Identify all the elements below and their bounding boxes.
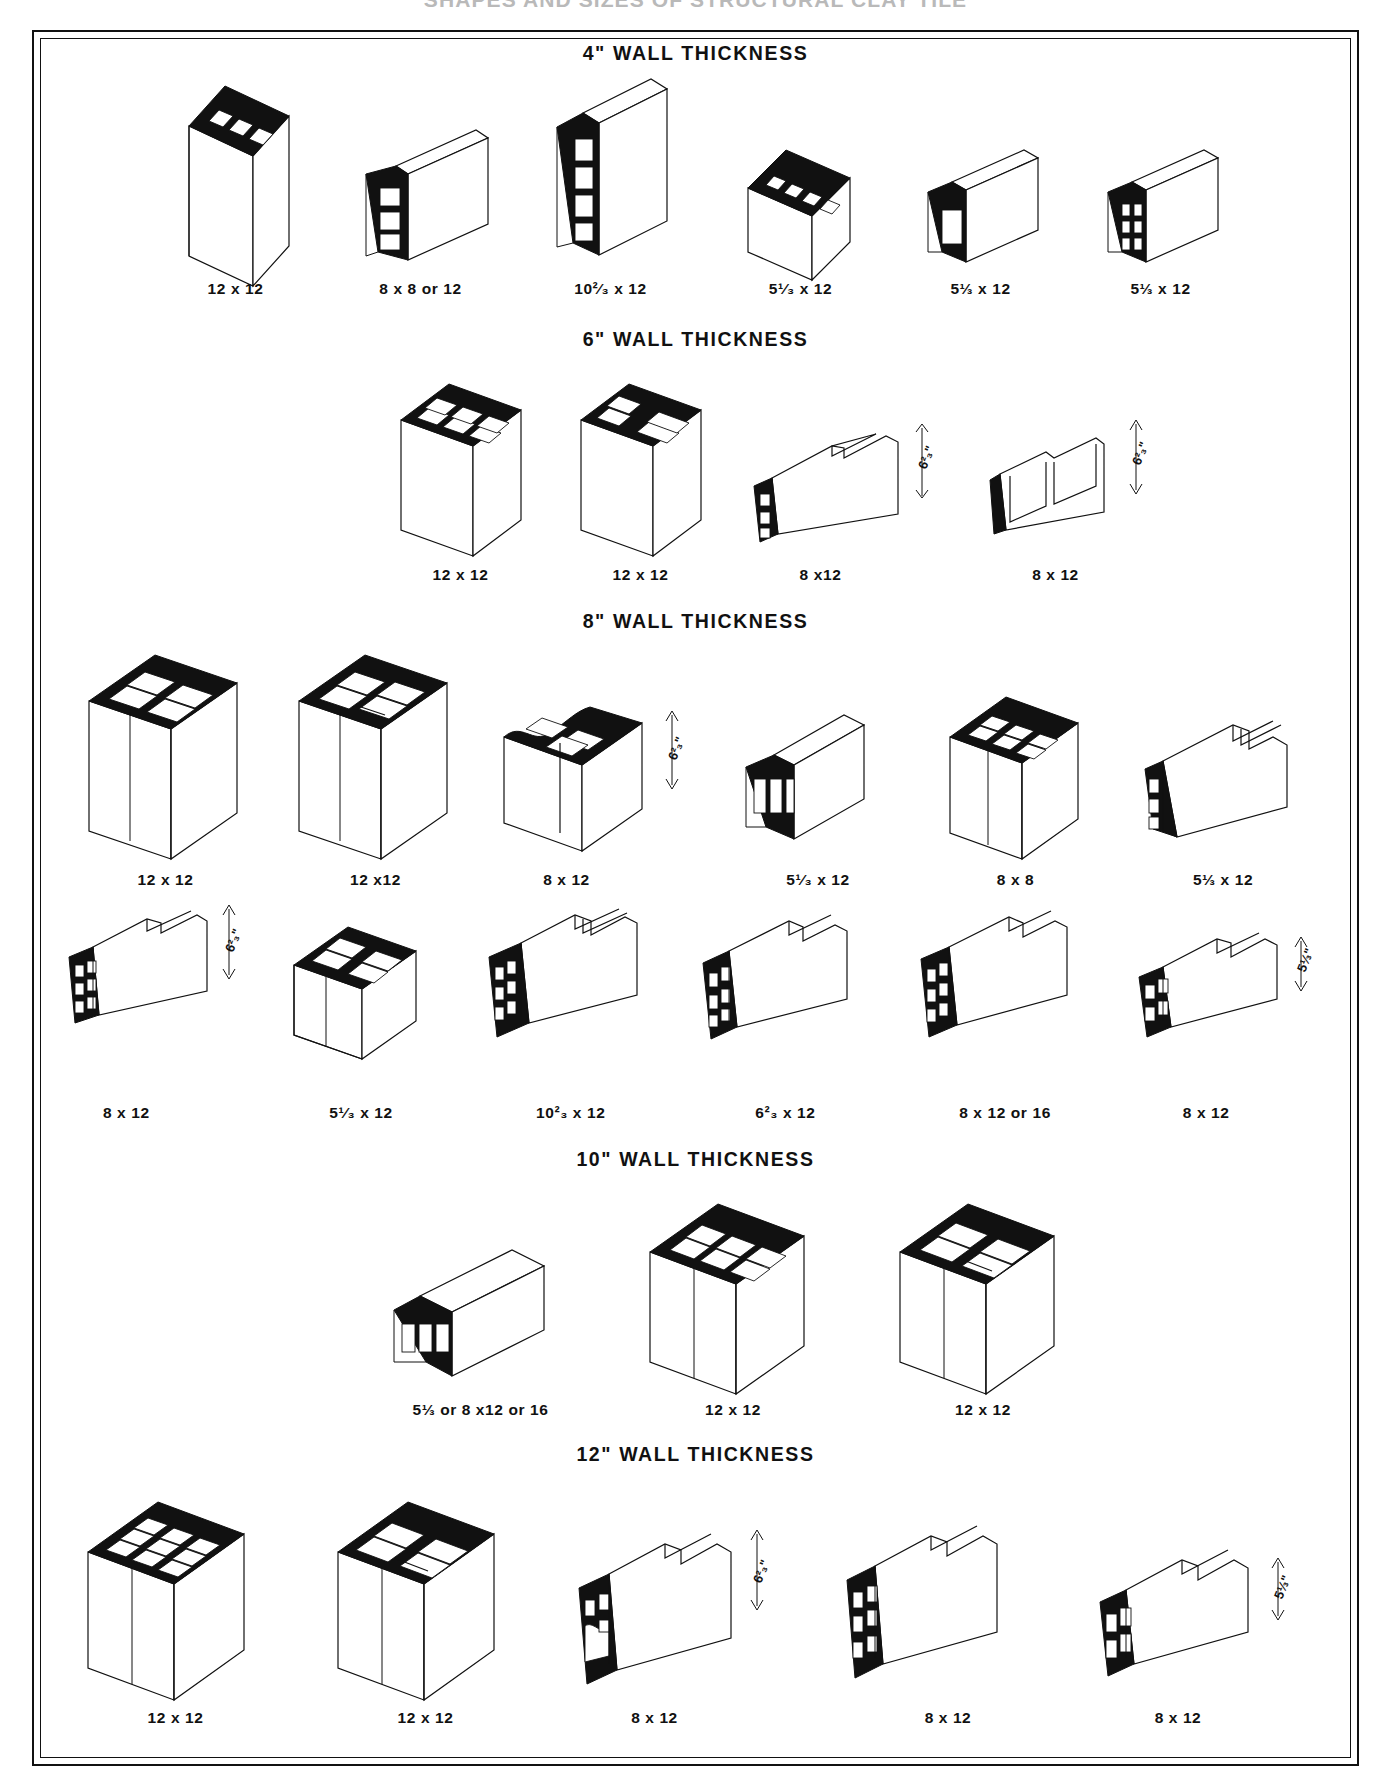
block-item[interactable]: 5⅓ x 12 (1071, 126, 1251, 298)
block-caption: 8 x 12 (925, 1709, 972, 1727)
block-figure-ribbed-long (1123, 637, 1323, 867)
block-caption: 10²⁄₃ x 12 (574, 280, 647, 298)
block-item[interactable]: 5⅓ x 12 (891, 126, 1071, 298)
block-item[interactable]: 5⅓ or 8 x12 or 16 (353, 1182, 608, 1419)
dimension-label: 6²₃" (749, 1557, 772, 1585)
block-item[interactable]: 12 x 12 (551, 362, 731, 584)
block-item[interactable]: 12 x 12 (371, 362, 551, 584)
section-title-wall-12: 12" WALL THICKNESS (44, 1443, 1347, 1466)
block-figure-cube-6cell-big (628, 1182, 838, 1397)
block-caption: 12 x 12 (705, 1401, 761, 1419)
section-title-wall-8: 8" WALL THICKNESS (44, 610, 1347, 633)
section-wall-8: 8" WALL THICKNESS 12 x 12 (44, 610, 1347, 1122)
block-item[interactable]: 8 x 8 (916, 637, 1116, 889)
block-item[interactable]: 5¹⁄₃ x 12 (259, 895, 464, 1122)
block-item[interactable]: 12 x12 (271, 637, 481, 889)
row-wall-8-2: 6²₃" 8 x 12 (44, 907, 1347, 1122)
block-item[interactable]: 5⅓" 8 x 12 (1076, 1470, 1341, 1727)
dimension-label: 6²₃" (664, 734, 687, 762)
block-item[interactable]: 12 x 12 (858, 1182, 1108, 1419)
block-figure-profile-pair-left: 6²₃" (736, 362, 966, 562)
block-item[interactable]: 10²⁄₃ x 12 (511, 71, 711, 298)
dimension-label: 6²₃" (1128, 439, 1151, 467)
dimension-annotation: 5⅓" (1294, 937, 1317, 991)
block-figure-profile-grid-12 (831, 1470, 1066, 1705)
block-caption: 12 x 12 (398, 1709, 454, 1727)
dimension-annotation: 6²₃" (1128, 420, 1151, 494)
section-wall-12: 12" WALL THICKNESS (44, 1443, 1347, 1727)
block-item[interactable]: 8 x 12 (821, 1470, 1076, 1727)
dimension-label: 6²₃" (914, 443, 937, 471)
section-title-wall-6: 6" WALL THICKNESS (44, 328, 1347, 351)
block-caption: 12 x 12 (433, 566, 489, 584)
block-item[interactable]: 5⅓" 8 x 12 (1117, 895, 1347, 1122)
block-item[interactable]: 12 x 12 (608, 1182, 858, 1419)
block-figure-deep-webbed (471, 895, 671, 1100)
block-item[interactable]: 5¹⁄₃ x 12 (711, 126, 891, 298)
block-caption: 12 x 12 (138, 871, 194, 889)
block-item[interactable]: 12 x 12 (61, 637, 271, 889)
block-item[interactable]: 6²₃" 8 x12 (731, 362, 971, 584)
block-caption: 5¹⁄₃ x 12 (329, 1104, 392, 1122)
block-caption: 8 x 12 (103, 1104, 150, 1122)
plate-content: 4" WALL THICKNESS 12 x 12 (44, 42, 1347, 1754)
dimension-label: 5⅓" (1270, 1573, 1293, 1601)
block-figure-profile-low-12: 5⅓" (1086, 1470, 1331, 1705)
block-figure-cube-4cell-split-big (318, 1470, 533, 1705)
dimension-label: 5⅓" (1294, 946, 1317, 974)
dimension-annotation: 6²₃" (749, 1530, 772, 1610)
block-figure-cube-4cell-big (878, 1182, 1088, 1397)
section-wall-6: 6" WALL THICKNESS 12 x 1 (44, 328, 1347, 584)
dimension-annotation: 6²₃" (222, 905, 245, 979)
block-caption: 8 x 12 (631, 1709, 678, 1727)
block-caption: 5¹⁄₃ x 12 (769, 280, 832, 298)
row-wall-10: 5⅓ or 8 x12 or 16 (44, 1191, 1347, 1419)
block-figure-cube-4cell (71, 637, 261, 867)
block-item[interactable]: 10²₃ x 12 (463, 895, 678, 1122)
block-item[interactable]: 6²₃" 8 x 12 (551, 1470, 821, 1727)
block-figure-tall-vertical-3cell (161, 71, 311, 276)
block-figure-cube-6cell (928, 637, 1103, 867)
block-figure-double-webbed (903, 895, 1108, 1100)
block-figure-flat-3cell-wide (376, 1182, 586, 1397)
dimension-annotation: 6²₃" (914, 424, 937, 498)
block-item[interactable]: 8 x 8 or 12 (331, 116, 511, 298)
block-item[interactable]: 6²₃" 8 x 12 (481, 637, 721, 889)
block-figure-low-open-1cell (906, 126, 1056, 276)
row-wall-6: 12 x 12 12 x 12 (44, 369, 1347, 584)
block-item[interactable]: 6²₃" 8 x 12 (971, 362, 1201, 584)
block-figure-channel-webbed (685, 895, 885, 1100)
block-caption: 8 x 12 (1032, 566, 1079, 584)
block-caption: 6²₃ x 12 (755, 1104, 815, 1122)
block-caption: 12 x 12 (955, 1401, 1011, 1419)
block-item[interactable]: 12 x 12 (301, 1470, 551, 1727)
block-caption: 8 x 12 (1155, 1709, 1202, 1727)
block-item[interactable]: 6²₃ x 12 (678, 895, 893, 1122)
block-item[interactable]: 12 x 12 (51, 1470, 301, 1727)
block-figure-low-vertical-4cell (726, 126, 876, 276)
block-figure-open-frame-block (266, 895, 456, 1100)
block-item[interactable]: 5⅓ x 12 (1116, 637, 1331, 889)
block-caption: 8 x 8 (997, 871, 1034, 889)
block-caption: 5⅓ x 12 (1193, 871, 1253, 889)
block-figure-low-small-6cell (1086, 126, 1236, 276)
block-figure-low-box-3cell (728, 637, 908, 867)
block-item[interactable]: 8 x 12 or 16 (893, 895, 1118, 1122)
block-caption: 10²₃ x 12 (536, 1104, 605, 1122)
block-figure-profile-webbed-a: 6²₃" (51, 895, 251, 1100)
block-figure-cube-4cell-split (281, 637, 471, 867)
block-caption: 5⅓ x 12 (1130, 280, 1190, 298)
row-wall-8-1: 12 x 12 12 x12 (44, 649, 1347, 889)
block-caption: 12 x 12 (613, 566, 669, 584)
block-caption: 5⅓ or 8 x12 or 16 (412, 1401, 548, 1419)
block-caption: 8 x 12 (543, 871, 590, 889)
block-figure-wavy-top-block: 6²₃" (486, 637, 716, 867)
row-wall-12: 12 x 12 12 x 12 (44, 1482, 1347, 1727)
block-caption: 5¹⁄₃ x 12 (786, 871, 849, 889)
block-item[interactable]: 5¹⁄₃ x 12 (721, 637, 916, 889)
dimension-annotation: 5⅓" (1270, 1558, 1293, 1620)
dimension-label: 6²₃" (222, 926, 245, 954)
block-item[interactable]: 6²₃" 8 x 12 (44, 895, 259, 1122)
block-item[interactable]: 12 x 12 (141, 71, 331, 298)
block-caption: 12 x 12 (208, 280, 264, 298)
